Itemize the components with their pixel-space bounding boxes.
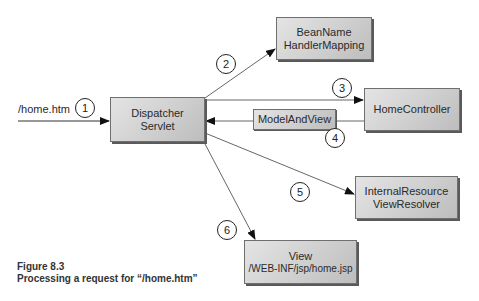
connector-arrows: [0, 0, 479, 301]
step-1-badge: 1: [75, 98, 95, 118]
step-3-badge: 3: [332, 78, 352, 98]
arrow-to-handler-mapping: [205, 49, 275, 98]
figure-description: Processing a request for “/home.htm”: [17, 273, 198, 285]
step-5-badge: 5: [290, 182, 310, 202]
figure-caption: Figure 8.3 Processing a request for “/ho…: [17, 261, 198, 285]
dispatcher-line2: Servlet: [140, 120, 174, 133]
view-resolver-line1: InternalResource: [365, 185, 449, 198]
model-and-view-label: ModelAndView: [258, 113, 331, 126]
step-6-badge: 6: [217, 220, 237, 240]
dispatcher-servlet-node: Dispatcher Servlet: [110, 97, 205, 142]
view-line2: /WEB-INF/jsp/home.jsp: [249, 263, 353, 275]
figure-number: Figure 8.3: [17, 261, 198, 273]
request-url-label: /home.htm: [18, 103, 70, 115]
dispatcher-line1: Dispatcher: [131, 107, 184, 120]
view-resolver-line2: ViewResolver: [373, 198, 440, 211]
handler-mapping-line2: HandlerMapping: [284, 39, 365, 52]
handler-mapping-line1: BeanName: [296, 26, 351, 39]
view-resolver-node: InternalResource ViewResolver: [355, 176, 458, 219]
handler-mapping-node: BeanName HandlerMapping: [276, 17, 372, 60]
view-line1: View: [289, 250, 313, 263]
home-controller-label: HomeController: [373, 103, 450, 116]
home-controller-node: HomeController: [364, 88, 460, 131]
view-node: View /WEB-INF/jsp/home.jsp: [244, 240, 357, 284]
step-4-badge: 4: [325, 128, 345, 148]
step-2-badge: 2: [216, 54, 236, 74]
model-and-view-node: ModelAndView: [253, 109, 336, 130]
